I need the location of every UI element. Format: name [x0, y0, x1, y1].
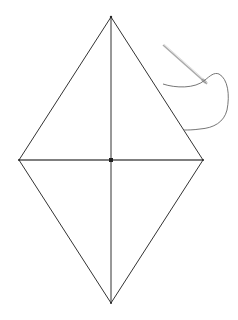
thread-icon [163, 73, 228, 130]
needle-icon [163, 44, 208, 84]
vertex-top [110, 16, 112, 18]
vertex-left [18, 159, 20, 161]
center-point [109, 158, 113, 162]
kite-diagram [0, 0, 238, 320]
edge-bottom-right [111, 160, 203, 303]
edge-top-right [111, 17, 203, 160]
vertex-right [202, 159, 204, 161]
edge-bottom-left [19, 160, 111, 303]
vertex-bottom [110, 302, 112, 304]
edge-top-left [19, 17, 111, 160]
